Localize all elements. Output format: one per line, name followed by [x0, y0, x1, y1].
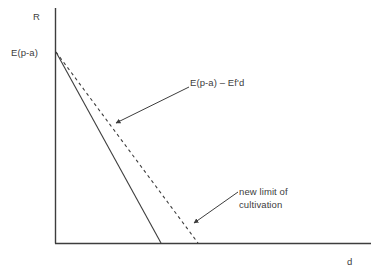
annotation-label-new-limit: new limit ofcultivation: [239, 186, 288, 211]
y-axis-intercept-label: E(p-a): [11, 47, 38, 59]
annotation-leader-rent-function: [116, 87, 189, 123]
annotation-label-rent-function: E(p-a) – Ef'd: [190, 77, 244, 89]
y-axis-label: R: [33, 11, 40, 23]
rent-line-solid: [56, 52, 161, 243]
annotation-new-limit-line1: new limit of: [239, 186, 288, 197]
annotation-leader-new-limit: [194, 192, 238, 223]
annotation-new-limit-line2: cultivation: [239, 199, 288, 212]
diagram-svg: [0, 0, 384, 280]
rent-line-dashed: [56, 52, 198, 243]
x-axis-label: d: [347, 256, 352, 268]
diagram-canvas: R d E(p-a) E(p-a) – Ef'd new limit ofcul…: [0, 0, 384, 280]
